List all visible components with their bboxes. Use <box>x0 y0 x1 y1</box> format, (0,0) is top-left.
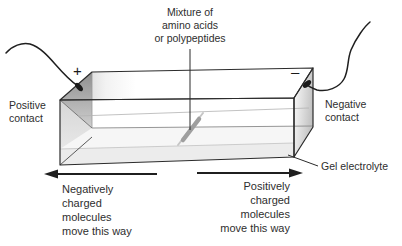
left-wire <box>6 43 78 86</box>
positive-contact-label: Positive contact <box>9 99 46 125</box>
mixture-label: Mixture of amino acids or polypeptides <box>130 6 250 45</box>
negative-contact-label: Negative contact <box>325 98 366 124</box>
plus-terminal-label: + <box>73 63 82 78</box>
gel-electrolyte-label: Gel electrolyte <box>321 160 388 173</box>
minus-terminal-label: – <box>291 64 299 79</box>
right-arrow <box>197 169 303 178</box>
electrophoresis-diagram: Mixture of amino acids or polypeptides +… <box>0 0 402 246</box>
gel-pointer-line <box>288 155 318 166</box>
positive-flow-label: Positively charged molecules move this w… <box>170 179 290 235</box>
negative-flow-label: Negatively charged molecules move this w… <box>62 182 132 238</box>
right-wire <box>306 22 370 91</box>
left-arrow <box>44 170 157 179</box>
tank-top-face <box>60 68 313 100</box>
